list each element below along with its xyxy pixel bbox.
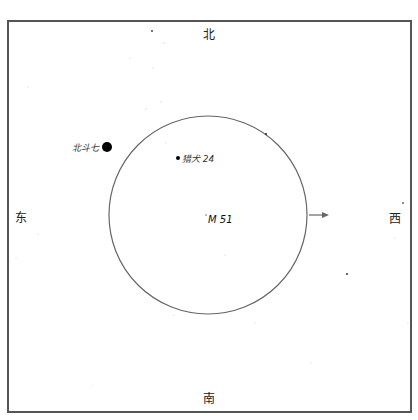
star-field xyxy=(0,0,418,420)
faint-star xyxy=(310,362,311,363)
west-label: 西 xyxy=(389,209,401,226)
star-label-cvn24: 猎犬 24 xyxy=(182,152,214,165)
motion-arrow-icon xyxy=(309,212,329,218)
faint-star xyxy=(173,314,174,315)
faint-star xyxy=(407,322,408,323)
faint-star xyxy=(145,108,146,109)
east-label: 东 xyxy=(15,208,27,225)
faint-star xyxy=(160,101,161,102)
faint-star xyxy=(346,273,348,275)
faint-star xyxy=(163,42,164,43)
target-marker xyxy=(205,214,207,216)
star-label-beidou: 北斗七 xyxy=(72,141,99,154)
faint-star xyxy=(402,202,404,204)
faint-star xyxy=(129,57,130,58)
target-label: M 51 xyxy=(208,214,233,225)
faint-star xyxy=(165,142,166,143)
faint-star xyxy=(15,257,16,258)
star-marker xyxy=(176,156,180,160)
faint-star xyxy=(151,30,153,32)
faint-star xyxy=(224,254,225,255)
faint-star xyxy=(92,383,93,384)
faint-star xyxy=(152,67,153,68)
faint-star xyxy=(394,237,395,238)
finder-chart: 北 南 东 西 北斗七 猎犬 24 M 51 xyxy=(0,0,418,420)
star-marker xyxy=(102,142,112,152)
faint-star xyxy=(265,133,267,135)
south-label: 南 xyxy=(203,389,215,406)
faint-stars xyxy=(15,30,408,385)
faint-star xyxy=(254,322,255,323)
faint-star xyxy=(37,233,38,234)
north-label: 北 xyxy=(203,25,215,42)
faint-star xyxy=(27,86,28,87)
